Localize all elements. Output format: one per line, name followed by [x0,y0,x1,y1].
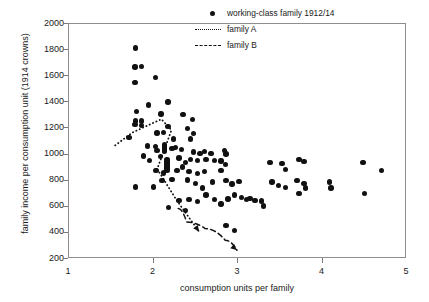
x-axis-tick-label: 5 [396,267,416,276]
data-point [195,171,200,176]
data-point [180,164,185,169]
y-axis-tick-label: 200 [49,254,64,263]
data-point [132,64,137,69]
data-point [174,168,179,173]
legend-marker-dot [210,11,215,16]
data-point [283,185,288,190]
data-point [212,197,217,202]
data-point [200,185,205,190]
data-point [279,161,284,166]
arrowhead-family-a [193,225,199,232]
data-point [188,136,193,141]
data-point [158,111,163,116]
x-axis-tick-mark [322,258,323,263]
data-point [161,170,166,175]
legend-label: family A [227,24,256,34]
data-point [139,123,144,128]
arrowhead-family-b [230,244,237,250]
data-point [158,154,163,159]
data-point [159,178,164,183]
legend-item: family B [193,37,335,53]
data-point [186,169,191,174]
data-point [212,158,217,163]
data-point [133,184,138,189]
legend-label: family B [227,40,257,50]
data-point [232,192,237,197]
data-point [303,185,308,190]
data-point [252,198,257,203]
y-axis-tick-label: 2000 [44,19,64,28]
data-point [166,205,171,210]
data-point [173,145,178,150]
legend-item: working-class family 1912/14 [193,5,335,21]
dashed-line-icon [193,38,227,52]
data-point [183,208,188,213]
x-axis-tick-mark [237,258,238,263]
data-point [145,143,150,148]
legend-line-sample [195,45,221,46]
data-point [379,168,384,173]
data-point [165,99,170,104]
data-point [208,151,213,156]
data-point [267,160,272,165]
data-point [236,179,241,184]
data-point [190,117,195,122]
data-point [176,155,181,160]
data-point [328,185,333,190]
data-point [188,157,193,162]
data-point [126,135,131,140]
marker-dot-icon [193,6,227,20]
x-axis-tick-label: 2 [143,267,163,276]
x-axis-title: consumption units per family [68,283,406,294]
data-point [169,177,174,182]
trend-lines-overlay [69,24,405,257]
y-axis-tick-label: 400 [49,227,64,236]
data-point [261,203,266,208]
data-point [218,168,223,173]
plot-area [69,24,405,257]
data-point [179,147,184,152]
x-axis-tick-mark [153,258,154,263]
y-axis-title: family income per consumption unit (1914… [20,16,31,251]
data-point [327,179,332,184]
data-point [141,153,146,158]
data-point [193,181,198,186]
data-point [294,178,299,183]
data-point [132,122,137,127]
x-axis-tick-label: 4 [312,267,332,276]
data-point [362,191,367,196]
data-point [276,183,281,188]
y-axis-tick-label: 1000 [44,149,64,158]
y-axis-tick-mark [63,258,68,259]
data-point [203,157,208,162]
data-point [165,124,170,129]
data-point [191,149,196,154]
legend-item: family A [193,21,335,37]
data-point [146,102,151,107]
y-axis-tick-label: 1600 [44,71,64,80]
data-point [223,223,228,228]
data-point [139,64,144,69]
data-point [269,179,274,184]
data-point [180,112,185,117]
data-point [195,158,200,163]
data-point [195,199,200,204]
data-point [154,130,159,135]
data-point [153,75,158,80]
data-point [203,192,208,197]
data-point [229,181,234,186]
legend-label: working-class family 1912/14 [227,8,335,18]
y-axis-tick-labels: 200018001600140012001000800600400200 [28,0,64,302]
dotted-line-icon [193,22,227,36]
data-point [185,177,190,182]
data-point [202,149,207,154]
data-point [301,159,306,164]
data-point [134,109,139,114]
data-point [218,201,223,206]
data-point [360,160,365,165]
data-point [176,198,181,203]
x-axis-tick-label: 3 [227,267,247,276]
y-axis-tick-label: 1800 [44,45,64,54]
data-point [225,196,230,201]
data-point [132,80,137,85]
